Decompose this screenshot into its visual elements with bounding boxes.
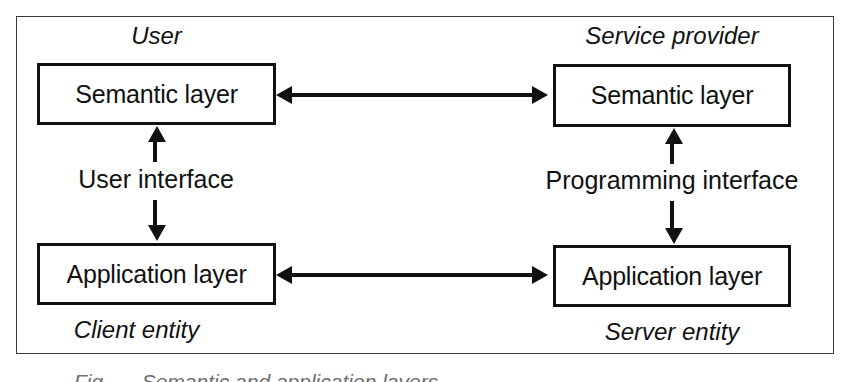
arrowhead-down-icon bbox=[665, 228, 683, 244]
connector-semantic-layers-shaft bbox=[290, 93, 534, 97]
arrowhead-left-icon bbox=[276, 266, 292, 284]
caption-server-entity: Server entity bbox=[553, 318, 791, 346]
diagram-canvas: User Service provider Semantic layer Sem… bbox=[0, 0, 849, 382]
connector-application-layers-shaft bbox=[290, 273, 534, 277]
caption-service-provider: Service provider bbox=[553, 22, 791, 50]
box-server-application-layer-label: Application layer bbox=[582, 264, 762, 289]
label-programming-interface: Programming interface bbox=[520, 166, 824, 195]
label-user-interface: User interface bbox=[20, 165, 292, 194]
arrowhead-up-icon bbox=[148, 126, 166, 142]
arrowhead-up-icon bbox=[665, 128, 683, 144]
connector-user-interface-down-shaft bbox=[153, 200, 157, 226]
box-user-semantic-layer-label: Semantic layer bbox=[75, 82, 238, 107]
arrowhead-right-icon bbox=[532, 86, 548, 104]
box-client-application-layer[interactable]: Application layer bbox=[37, 243, 276, 305]
arrowhead-down-icon bbox=[148, 225, 166, 241]
cropped-figure-caption: Fig. — Semantic and application layers bbox=[74, 370, 494, 382]
connector-programming-interface-up-shaft bbox=[670, 142, 674, 164]
box-provider-semantic-layer[interactable]: Semantic layer bbox=[553, 64, 791, 127]
arrowhead-right-icon bbox=[532, 266, 548, 284]
connector-programming-interface-down-shaft bbox=[670, 201, 674, 229]
box-client-application-layer-label: Application layer bbox=[66, 262, 246, 287]
arrowhead-left-icon bbox=[276, 86, 292, 104]
caption-client-entity: Client entity bbox=[17, 316, 256, 344]
caption-user: User bbox=[37, 22, 276, 50]
box-user-semantic-layer[interactable]: Semantic layer bbox=[37, 63, 276, 125]
connector-user-interface-up-shaft bbox=[153, 140, 157, 162]
box-server-application-layer[interactable]: Application layer bbox=[553, 245, 791, 307]
box-provider-semantic-layer-label: Semantic layer bbox=[591, 83, 754, 108]
